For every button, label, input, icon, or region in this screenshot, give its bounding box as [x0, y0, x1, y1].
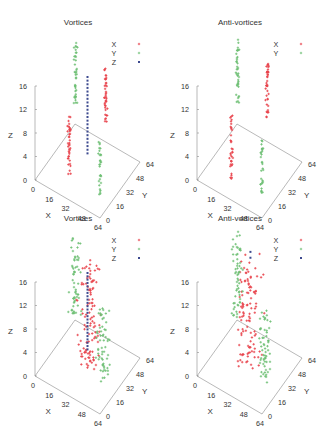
data-point — [236, 316, 238, 318]
data-point — [264, 99, 266, 101]
data-point — [75, 49, 77, 51]
data-point — [258, 364, 260, 366]
data-point — [249, 289, 251, 291]
data-point — [87, 91, 89, 93]
data-point — [249, 340, 251, 342]
data-point — [77, 282, 79, 284]
data-point — [87, 87, 89, 89]
data-point — [252, 343, 254, 345]
data-point — [267, 371, 269, 373]
data-point — [228, 157, 230, 159]
y-tick-label: 48 — [136, 370, 144, 379]
data-point — [77, 242, 79, 244]
z-tick-label: 16 — [19, 278, 27, 287]
data-point — [76, 246, 78, 248]
data-point — [262, 373, 264, 375]
z-axis-label: Z — [170, 131, 175, 140]
data-point — [267, 109, 269, 111]
data-point — [267, 105, 269, 107]
data-point — [87, 131, 89, 133]
legend-marker-z — [300, 257, 302, 259]
data-point — [69, 170, 71, 172]
z-tick-label: 8 — [23, 129, 27, 138]
data-point — [266, 90, 268, 92]
data-point — [232, 238, 234, 240]
data-point — [249, 257, 251, 259]
data-point — [99, 327, 101, 329]
x-tick-label: 64 — [256, 223, 264, 232]
data-point — [97, 341, 99, 343]
data-point — [267, 93, 269, 95]
data-point — [87, 312, 89, 314]
legend-marker-y — [138, 52, 140, 54]
y-tick-label: 32 — [126, 384, 134, 393]
data-point — [99, 334, 101, 336]
y-axis-label: Y — [142, 387, 148, 396]
data-point — [87, 285, 89, 287]
data-point — [243, 267, 245, 269]
data-point — [89, 322, 91, 324]
data-point — [87, 302, 89, 304]
legend-marker-x — [138, 239, 140, 241]
data-point — [67, 120, 69, 122]
data-point — [87, 328, 89, 330]
y-tick-label: 48 — [298, 370, 306, 379]
data-point — [260, 371, 262, 373]
legend-label-z: Z — [112, 254, 117, 263]
chart-title: Vortices — [64, 18, 92, 27]
data-point — [264, 351, 266, 353]
z-tick-label: 8 — [185, 129, 189, 138]
data-point — [76, 259, 78, 261]
data-point — [269, 361, 271, 363]
series-x — [237, 253, 266, 370]
data-point — [87, 145, 89, 147]
data-point — [245, 272, 247, 274]
x-axis-label: X — [207, 211, 213, 220]
legend-marker-y — [300, 52, 302, 54]
data-point — [266, 98, 268, 100]
data-point — [237, 47, 239, 49]
legend-label-z: Z — [274, 254, 279, 263]
data-point — [265, 369, 267, 371]
z-axis-label: Z — [8, 327, 13, 336]
data-point — [230, 160, 232, 162]
z-axis-label: Z — [170, 327, 175, 336]
data-point — [73, 286, 75, 288]
data-point — [246, 268, 248, 270]
x-tick-label: 48 — [78, 410, 86, 419]
data-point — [87, 98, 89, 100]
data-point — [72, 250, 74, 252]
data-point — [239, 279, 241, 281]
data-point — [87, 309, 89, 311]
data-point — [69, 159, 71, 161]
data-point — [269, 368, 271, 370]
data-point — [235, 311, 237, 313]
x-tick-label: 16 — [207, 195, 215, 204]
data-point — [87, 292, 89, 294]
data-point — [67, 173, 69, 175]
data-point — [87, 338, 89, 340]
data-point — [82, 347, 84, 349]
data-point — [263, 365, 265, 367]
data-point — [260, 345, 262, 347]
data-point — [87, 123, 89, 125]
data-point — [230, 123, 232, 125]
legend-marker-x — [138, 43, 140, 45]
data-point — [70, 246, 72, 248]
data-point — [249, 251, 251, 253]
y-tick-label: 32 — [288, 384, 296, 393]
data-point — [251, 336, 253, 338]
data-point — [90, 293, 92, 295]
data-point — [91, 298, 93, 300]
data-point — [236, 235, 238, 237]
data-point — [239, 316, 241, 318]
data-point — [231, 312, 233, 314]
data-point — [107, 373, 109, 375]
y-tick-label: 0 — [268, 216, 272, 225]
data-point — [87, 342, 89, 344]
data-point — [104, 120, 106, 122]
data-point — [87, 152, 89, 154]
z-tick-label: 4 — [185, 348, 189, 357]
data-point — [89, 324, 91, 326]
data-point — [240, 281, 242, 283]
